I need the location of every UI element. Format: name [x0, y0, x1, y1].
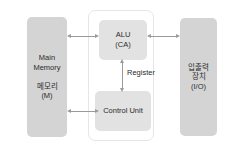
io-device-line3: (I/O) — [191, 82, 206, 92]
arrowhead-left-icon — [67, 109, 71, 113]
arrow-memory-to-alu — [71, 36, 95, 37]
alu-line2: (CA) — [115, 40, 130, 50]
io-device-line2: 장치 — [192, 72, 206, 82]
main-memory-line1: Main — [39, 53, 55, 63]
arrowhead-right-icon — [95, 109, 99, 113]
arrowhead-up-icon — [120, 59, 124, 63]
block-alu: ALU (CA) — [99, 20, 147, 60]
io-device-line1: 입출력 — [188, 63, 209, 73]
arrow-alu-to-io — [151, 36, 176, 37]
arrowhead-left-icon — [67, 34, 71, 38]
main-memory-line4: (M) — [41, 91, 52, 101]
arrowhead-right-icon — [176, 34, 180, 38]
block-control-unit: Control Unit — [95, 91, 151, 131]
diagram-canvas: Main Memory 메모리 (M) 입출력 장치 (I/O) ALU (CA… — [0, 0, 235, 153]
main-memory-line2: Memory — [33, 63, 60, 73]
arrow-alu-to-control-unit — [122, 63, 123, 88]
arrow-memory-to-control-unit — [71, 111, 95, 112]
block-main-memory: Main Memory 메모리 (M) — [27, 17, 67, 137]
arrowhead-left-icon — [147, 34, 151, 38]
arrowhead-right-icon — [95, 34, 99, 38]
control-unit-line1: Control Unit — [103, 106, 143, 116]
register-label: Register — [127, 68, 155, 77]
block-io-device: 입출력 장치 (I/O) — [180, 18, 217, 136]
main-memory-line3: 메모리 — [37, 82, 58, 92]
alu-line1: ALU — [116, 30, 131, 40]
arrowhead-down-icon — [120, 88, 124, 92]
